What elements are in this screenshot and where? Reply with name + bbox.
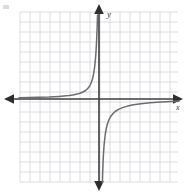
coordinate-plane-figure: y x [0, 0, 186, 195]
x-axis-left-arrowhead [4, 94, 14, 104]
graph-canvas: y x [0, 0, 186, 195]
x-axis-label: x [175, 103, 180, 112]
y-axis-top-arrowhead [94, 4, 104, 14]
y-axis-label: y [106, 9, 111, 19]
curve-branch-upper-left [19, 15, 98, 98]
corner-artifact [3, 5, 9, 9]
